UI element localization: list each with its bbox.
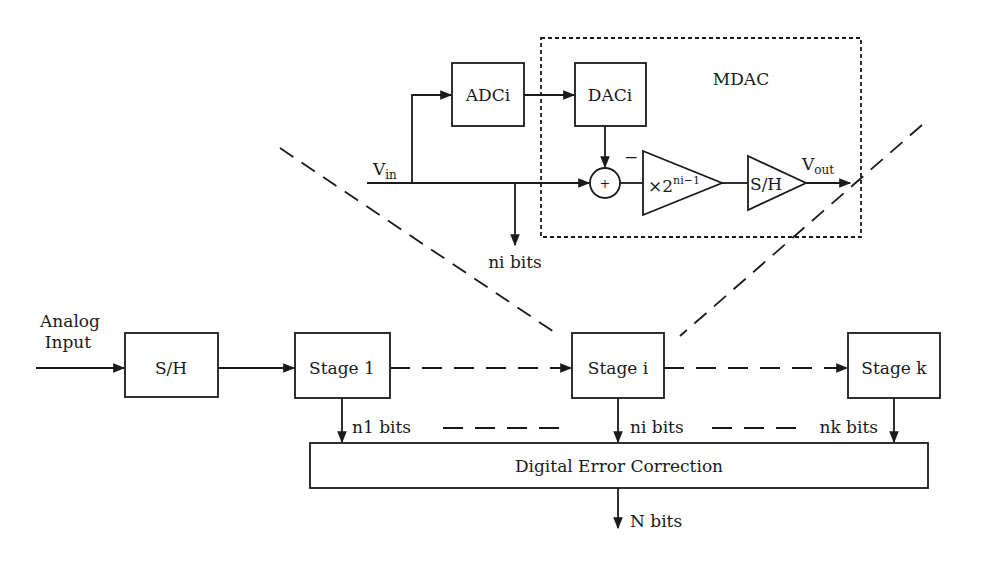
stagek-bits-label: nk bits [819, 417, 878, 437]
vin-label: Vin [372, 159, 397, 182]
mdac-bits-label: ni bits [488, 252, 542, 272]
stagei-bits-label: ni bits [630, 417, 684, 437]
correction-label: Digital Error Correction [515, 456, 723, 476]
output-bits-label: N bits [630, 511, 682, 531]
dac-label: DACi [588, 85, 633, 105]
vin-to-adc-wire [412, 95, 451, 183]
analog-input-label: Analog [39, 311, 100, 331]
sum-plus-sign: + [600, 176, 611, 191]
input-sh-label: S/H [155, 358, 187, 378]
stage-k-label: Stage k [861, 358, 927, 378]
zoom-guide-left [280, 148, 560, 336]
zoom-guide-right [680, 125, 922, 336]
mdac-detail: MDAC ADCi DACi ni bits Vin − + ×2ni−1 S/… [367, 38, 861, 272]
sum-minus-sign: − [624, 147, 638, 167]
pipeline: Analog Input S/H Stage 1 Stage i Stage k… [36, 311, 940, 531]
stage-1-label: Stage 1 [309, 358, 375, 378]
mdac-label: MDAC [713, 69, 769, 89]
vout-label: Vout [801, 154, 834, 177]
stage-i-label: Stage i [588, 358, 649, 378]
analog-input-label-2: Input [45, 332, 91, 352]
mdac-sh-label: S/H [750, 174, 782, 194]
pipelined-adc-diagram: MDAC ADCi DACi ni bits Vin − + ×2ni−1 S/… [0, 0, 986, 570]
stage1-bits-label: n1 bits [352, 417, 411, 437]
adc-label: ADCi [465, 85, 511, 105]
